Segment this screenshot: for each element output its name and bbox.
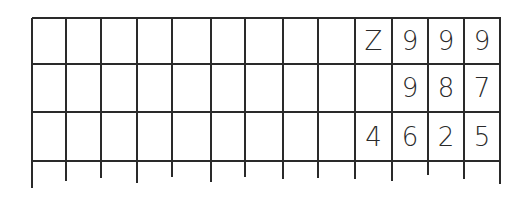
grid-column-line <box>317 18 319 178</box>
grid-column-line <box>31 18 33 188</box>
grid-cell-digit: 2 <box>428 112 464 161</box>
grid-column-line <box>244 18 246 177</box>
grid-column-line <box>65 18 67 181</box>
grid-column-line <box>136 18 138 183</box>
grid-cell-digit: Z <box>355 18 392 64</box>
place-value-grid: Z9999874625 <box>0 0 520 197</box>
grid-cell-digit: 8 <box>428 64 464 112</box>
grid-cell-digit: 5 <box>464 112 500 161</box>
grid-cell-digit: 9 <box>392 18 428 64</box>
grid-cell-digit: 4 <box>355 112 392 161</box>
grid-cell-digit: 6 <box>392 112 428 161</box>
grid-column-line <box>171 18 173 177</box>
grid-column-line <box>282 18 284 179</box>
grid-cell-digit: 9 <box>392 64 428 112</box>
grid-cell-digit: 9 <box>464 18 500 64</box>
grid-cell-digit: 7 <box>464 64 500 112</box>
grid-column-line <box>210 18 212 182</box>
grid-cell-digit: 9 <box>428 18 464 64</box>
grid-column-line <box>100 18 102 178</box>
